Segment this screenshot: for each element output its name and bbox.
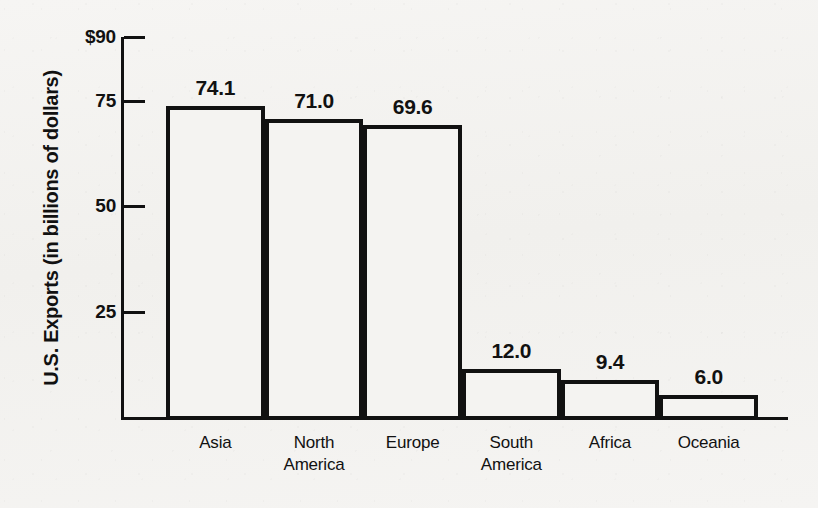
- bar-chart-figure: U.S. Exports (in billions of dollars) $9…: [0, 0, 818, 508]
- bar-slot: 9.4: [561, 37, 660, 420]
- category-label-line1: South: [462, 432, 561, 454]
- category-label-asia: Asia: [166, 432, 265, 454]
- y-axis-tick-label-75: 75: [56, 91, 116, 110]
- y-axis-tick-label-25: 25: [56, 302, 116, 321]
- y-axis-tick-mark-90: [124, 36, 145, 39]
- category-label-europe: Europe: [363, 432, 462, 454]
- bar-slot: 71.0: [265, 37, 364, 420]
- plot-area: 74.171.069.612.09.46.0: [166, 37, 758, 420]
- category-label-line2: America: [462, 454, 561, 476]
- category-label-line1: Oceania: [659, 432, 758, 454]
- bar-oceania[interactable]: [659, 395, 758, 420]
- y-axis-tick-label-50: 50: [56, 196, 116, 215]
- category-label-line1: Europe: [363, 432, 462, 454]
- y-axis-tick-label-90: $90: [56, 27, 116, 46]
- bar-asia[interactable]: [166, 106, 265, 420]
- bar-value-label: 69.6: [349, 96, 476, 117]
- category-label-north-america: NorthAmerica: [265, 432, 364, 476]
- bar-value-label: 6.0: [645, 366, 772, 387]
- category-label-line2: America: [265, 454, 364, 476]
- y-axis-title: U.S. Exports (in billions of dollars): [36, 18, 66, 438]
- category-label-africa: Africa: [561, 432, 660, 454]
- bar-south-america[interactable]: [462, 369, 561, 420]
- category-label-line1: Asia: [166, 432, 265, 454]
- y-axis-tick-mark-50: [124, 205, 145, 208]
- x-axis-category-labels: AsiaNorthAmericaEuropeSouthAmericaAfrica…: [166, 432, 758, 492]
- y-axis-tick-mark-75: [124, 100, 145, 103]
- category-label-south-america: SouthAmerica: [462, 432, 561, 476]
- bar-slot: 69.6: [363, 37, 462, 420]
- category-label-line1: Africa: [561, 432, 660, 454]
- category-label-oceania: Oceania: [659, 432, 758, 454]
- category-label-line1: North: [265, 432, 364, 454]
- bar-europe[interactable]: [363, 125, 462, 420]
- y-axis-tick-mark-25: [124, 311, 145, 314]
- bar-north-america[interactable]: [265, 119, 364, 420]
- bar-slot: 6.0: [659, 37, 758, 420]
- y-axis-line: [121, 37, 124, 420]
